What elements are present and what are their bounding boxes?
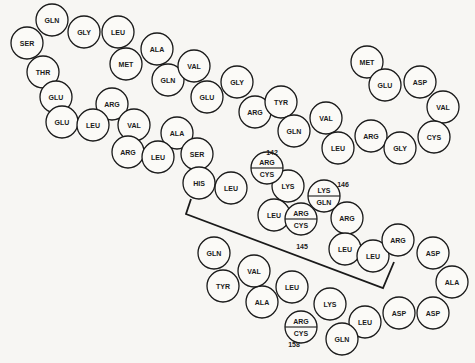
residue-label: VAL [127, 122, 141, 129]
residue-asp: ASP [417, 237, 449, 269]
residue-group: GLNSERGLYLEUTHRMETALAGLUARGGLNVALGLUGLUL… [11, 4, 468, 355]
residue-label: LEU [267, 212, 281, 219]
split-residue: ARGCYS [285, 203, 317, 235]
residue-his: HIS [183, 167, 215, 199]
residue-label: ARG [120, 149, 136, 156]
residue-val: VAL [238, 255, 270, 287]
residue-gly: GLY [68, 16, 100, 48]
residue-label: ASP [426, 310, 441, 317]
residue-gly: GLY [384, 132, 416, 164]
residue-label: VAL [247, 268, 261, 275]
residue-label: GLY [230, 79, 244, 86]
split-residue: ARGCYS [285, 311, 317, 343]
residue-label: ALA [255, 299, 269, 306]
residue-label: VAL [436, 104, 450, 111]
residue-tyr: TYR [207, 270, 239, 302]
residue-gly: GLY [221, 66, 253, 98]
split-top-label: ARG [293, 318, 309, 325]
residue-label: ASP [426, 250, 441, 257]
split-top-label: ARG [259, 159, 275, 166]
residue-arg: ARG [355, 120, 387, 152]
residue-label: ALA [170, 130, 184, 137]
residue-label: ARG [363, 133, 379, 140]
residue-label: ARG [104, 101, 120, 108]
residue-label: LEU [111, 29, 125, 36]
residue-leu: LEU [276, 271, 308, 303]
residue-label: SER [190, 151, 204, 158]
residue-label: GLY [393, 145, 407, 152]
residue-label: GLU [378, 82, 393, 89]
residue-val: VAL [427, 91, 459, 123]
residue-leu: LEU [329, 233, 361, 265]
residue-label: MET [119, 61, 135, 68]
residue-met: MET [110, 48, 142, 80]
residue-asp: ASP [383, 297, 415, 329]
position-number: 158 [288, 341, 300, 348]
residue-leu: LEU [322, 132, 354, 164]
residue-label: GLN [161, 77, 176, 84]
split-bottom-label: CYS [294, 222, 309, 229]
residue-glu: GLU [191, 81, 223, 113]
residue-asp: ASP [417, 297, 449, 329]
residue-label: ALA [150, 46, 164, 53]
residue-tyr: TYR [265, 86, 297, 118]
residue-label: VAL [319, 115, 333, 122]
residue-ala: ALA [436, 266, 468, 298]
position-number: 145 [296, 243, 308, 250]
residue-label: TYR [274, 99, 288, 106]
residue-label: CYS [427, 134, 442, 141]
residue-label: THR [36, 69, 50, 76]
residue-arg: ARG [112, 136, 144, 168]
residue-label: LEU [86, 122, 100, 129]
residue-gln: GLN [36, 4, 68, 36]
residue-ser: SER [181, 138, 213, 170]
residue-label: GLU [49, 94, 64, 101]
residue-leu: LEU [142, 141, 174, 173]
residue-label: SER [20, 40, 34, 47]
residue-label: LEU [331, 145, 345, 152]
split-bottom-label: CYS [294, 330, 309, 337]
residue-label: LYS [282, 183, 295, 190]
residue-label: ASP [392, 310, 407, 317]
split-residue: LYSGLN [308, 180, 340, 212]
position-number: 142 [266, 149, 278, 156]
residue-label: ASP [413, 79, 428, 86]
residue-label: LEU [338, 246, 352, 253]
residue-label: LEU [151, 154, 165, 161]
residue-val: VAL [178, 50, 210, 82]
residue-gln: GLN [198, 237, 230, 269]
residue-label: GLN [287, 128, 302, 135]
residue-label: HIS [193, 180, 205, 187]
residue-label: LYS [324, 301, 337, 308]
position-number: 146 [337, 181, 349, 188]
residue-gln: GLN [326, 323, 358, 355]
residue-glu: GLU [46, 106, 78, 138]
split-top-label: LYS [318, 187, 331, 194]
residue-glu: GLU [369, 69, 401, 101]
residue-lys: LYS [314, 288, 346, 320]
residue-label: LEU [285, 284, 299, 291]
residue-label: LEU [224, 185, 238, 192]
residue-label: MET [360, 59, 376, 66]
residue-leu: LEU [77, 109, 109, 141]
residue-label: GLN [45, 17, 60, 24]
residue-label: LEU [366, 253, 380, 260]
residue-label: ARG [390, 237, 406, 244]
residue-ala: ALA [141, 33, 173, 65]
residue-label: ARG [339, 215, 355, 222]
residue-label: GLY [77, 29, 91, 36]
residue-val: VAL [310, 102, 342, 134]
residue-ala: ALA [246, 286, 278, 318]
residue-leu: LEU [102, 16, 134, 48]
protein-chain-diagram: GLNSERGLYLEUTHRMETALAGLUARGGLNVALGLUGLUL… [0, 0, 475, 363]
split-bottom-label: CYS [260, 171, 275, 178]
residue-label: ARG [247, 109, 263, 116]
residue-label: ALA [445, 279, 459, 286]
residue-arg: ARG [382, 224, 414, 256]
residue-leu: LEU [215, 172, 247, 204]
residue-label: GLU [200, 94, 215, 101]
residue-label: GLN [335, 336, 350, 343]
split-top-label: ARG [293, 210, 309, 217]
residue-label: TYR [216, 283, 230, 290]
residue-label: GLN [207, 250, 222, 257]
